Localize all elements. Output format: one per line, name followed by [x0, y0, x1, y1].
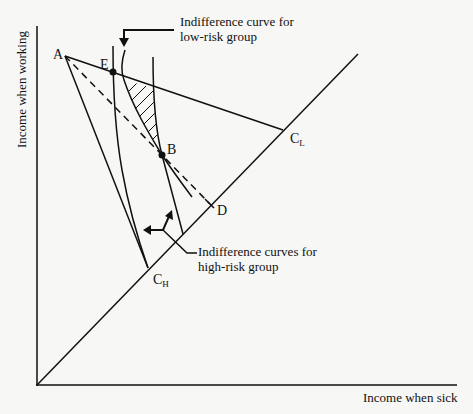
high-risk-annotation: Indifference curves for high-risk group — [198, 244, 317, 274]
point-b-marker — [159, 152, 166, 159]
point-cl-label: CL — [290, 131, 305, 151]
low-risk-arrowhead-icon — [119, 38, 129, 47]
high-risk-budget-line — [65, 56, 148, 268]
low-risk-annotation-line1: Indifference curve for — [180, 14, 294, 29]
pooled-budget-line — [65, 56, 210, 204]
high-risk-annotation-line2: high-risk group — [198, 259, 317, 274]
low-risk-budget-line — [65, 56, 283, 130]
point-cl-main: C — [290, 131, 299, 146]
point-a-label: A — [53, 47, 63, 62]
diagram-canvas — [0, 0, 473, 414]
point-cl-sub: L — [299, 138, 305, 148]
low-risk-annotation: Indifference curve for low-risk group — [180, 14, 294, 44]
point-d-label: D — [217, 203, 227, 218]
high-risk-indifference-curve-e — [113, 46, 148, 268]
point-b-label: B — [167, 142, 176, 157]
point-e-label: E — [100, 57, 109, 72]
y-axis-label: Income when working — [14, 31, 30, 148]
certainty-line — [37, 54, 358, 385]
point-ch-label: CH — [153, 272, 169, 292]
point-ch-main: C — [153, 272, 162, 287]
high-risk-annotation-line1: Indifference curves for — [198, 244, 317, 259]
arrow-left-head-icon — [143, 225, 151, 235]
hatched-region — [110, 60, 170, 182]
low-risk-pointer-arrow — [124, 30, 174, 40]
point-e-marker — [110, 69, 117, 76]
point-ch-sub: H — [162, 279, 169, 289]
x-axis-label: Income when sick — [363, 390, 458, 405]
low-risk-annotation-line2: low-risk group — [180, 29, 294, 44]
